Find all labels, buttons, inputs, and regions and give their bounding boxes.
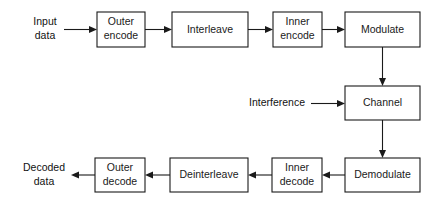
connector-deinterleave-to-outer-decode bbox=[145, 172, 170, 179]
block-outer-decode-line1: Outer bbox=[107, 161, 134, 173]
block-interleave-label: Interleave bbox=[187, 23, 233, 35]
block-modulate-label: Modulate bbox=[361, 23, 404, 35]
block-outer-decode-line2: decode bbox=[103, 175, 138, 187]
label-decoded-data-line1: Decoded bbox=[23, 161, 65, 173]
connector-modulate-to-channel bbox=[379, 47, 386, 86]
block-outer-encode-line2: encode bbox=[104, 29, 139, 41]
connector-channel-to-demodulate bbox=[379, 120, 386, 158]
connector-input-to-outer-encode bbox=[64, 26, 97, 33]
block-outer-decode[interactable]: Outer decode bbox=[95, 158, 145, 192]
label-decoded-data: Decoded data bbox=[23, 161, 65, 187]
block-interleave[interactable]: Interleave bbox=[172, 12, 248, 47]
label-input-data-line1: Input bbox=[33, 15, 56, 27]
connector-interference-to-channel bbox=[311, 100, 345, 107]
connector-outer-decode-to-decoded-data bbox=[71, 172, 95, 179]
block-inner-encode-line1: Inner bbox=[286, 15, 310, 27]
label-input-data: Input data bbox=[33, 15, 56, 41]
block-demodulate[interactable]: Demodulate bbox=[345, 158, 420, 192]
label-decoded-data-line2: data bbox=[34, 175, 55, 187]
connector-outer-encode-to-interleave bbox=[145, 26, 172, 33]
block-demodulate-label: Demodulate bbox=[354, 168, 411, 180]
connector-demodulate-to-inner-decode bbox=[322, 172, 345, 179]
block-channel-label: Channel bbox=[363, 96, 402, 108]
connector-inner-encode-to-modulate bbox=[322, 26, 345, 33]
label-input-data-line2: data bbox=[35, 29, 56, 41]
block-inner-encode-line2: encode bbox=[280, 29, 315, 41]
connector-interleave-to-inner-encode bbox=[248, 26, 273, 33]
block-deinterleave[interactable]: Deinterleave bbox=[170, 158, 248, 192]
connector-inner-decode-to-deinterleave bbox=[248, 172, 272, 179]
block-diagram-canvas: Outer encode Interleave Inner encode Mod… bbox=[0, 0, 439, 206]
block-inner-decode-line1: Inner bbox=[285, 161, 309, 173]
block-inner-decode[interactable]: Inner decode bbox=[272, 158, 322, 192]
block-modulate[interactable]: Modulate bbox=[345, 12, 420, 47]
label-interference-text: Interference bbox=[249, 96, 305, 108]
label-interference: Interference bbox=[249, 96, 305, 108]
block-inner-decode-line2: decode bbox=[280, 175, 315, 187]
block-outer-encode[interactable]: Outer encode bbox=[97, 12, 145, 47]
block-outer-encode-line1: Outer bbox=[108, 15, 135, 27]
block-inner-encode[interactable]: Inner encode bbox=[273, 12, 322, 47]
block-deinterleave-label: Deinterleave bbox=[180, 168, 239, 180]
block-channel[interactable]: Channel bbox=[345, 86, 420, 120]
communication-system-block-diagram: Outer encode Interleave Inner encode Mod… bbox=[0, 0, 439, 206]
